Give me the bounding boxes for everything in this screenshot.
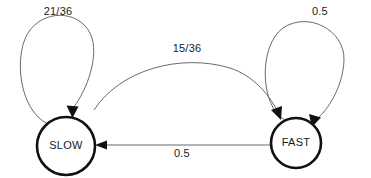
- edge-slow-self-loop-path: [20, 15, 93, 124]
- edge-slow-to-fast-path: [94, 63, 277, 110]
- node-fast-label: FAST: [282, 136, 311, 148]
- edge-fast-self-loop-path: [265, 22, 344, 120]
- diagram-canvas: SLOW FAST 21/36 15/36 0.5 0.5: [0, 0, 371, 178]
- edge-slow-to-fast-arrowhead: [271, 106, 282, 120]
- edge-label-slow-to-fast: 15/36: [173, 42, 202, 54]
- edge-slow-to-fast: [94, 63, 282, 120]
- edge-label-fast-self-loop: 0.5: [312, 5, 328, 17]
- node-slow-label: SLOW: [49, 139, 83, 151]
- node-fast[interactable]: FAST: [271, 118, 321, 168]
- markov-chain-diagram: SLOW FAST 21/36 15/36 0.5 0.5: [0, 0, 371, 178]
- edge-fast-to-slow-arrowhead: [95, 141, 107, 150]
- edge-label-fast-to-slow: 0.5: [174, 147, 190, 159]
- edge-slow-self-loop: [20, 15, 93, 124]
- edge-label-slow-self-loop: 21/36: [44, 5, 73, 17]
- node-slow[interactable]: SLOW: [37, 117, 95, 175]
